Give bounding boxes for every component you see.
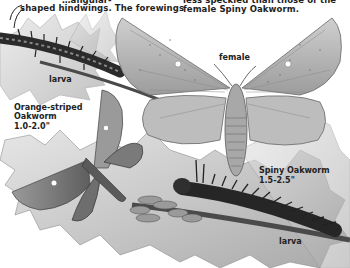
label-spiny-oakworm-name: Spiny Oakworm	[259, 166, 330, 175]
moth-illustration	[0, 0, 350, 268]
label-orange-striped-name-1: Orange-striped	[14, 103, 82, 112]
label-larva-bottom: larva	[279, 237, 302, 246]
label-spiny-oakworm-size: 1.5-2.5"	[259, 176, 295, 185]
field-guide-page: …angular- shaped hindwings. The forewing…	[0, 0, 350, 268]
label-female: female	[219, 53, 250, 62]
label-orange-striped-name-2: Oakworm	[14, 112, 57, 121]
paragraph-right-line: female Spiny Oakworm.	[183, 5, 299, 14]
label-larva-top: larva	[49, 75, 72, 84]
paragraph-left-line: shaped hindwings. The forewings	[20, 4, 184, 13]
label-orange-striped-size: 1.0-2.0"	[14, 122, 50, 131]
